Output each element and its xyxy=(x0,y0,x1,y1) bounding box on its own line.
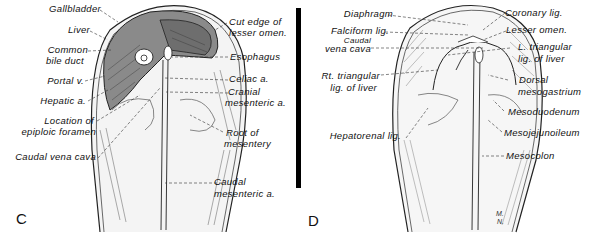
label-coronary-lig: Coronary lig. xyxy=(505,8,563,18)
label-falciform-lig: Falciform lig. xyxy=(331,26,389,36)
label-hepatorenal-lig: Hepatorenal lig. xyxy=(330,131,401,141)
label-mesogastrium: mesogastrium xyxy=(518,87,581,97)
label-mesoduodenum: Mesoduodenum xyxy=(508,107,580,117)
label-mesocolon: Mesocolon xyxy=(506,151,555,161)
label-caudal-mesenteric-a: mesenteric a. xyxy=(214,189,275,199)
panel-letter-c: C xyxy=(16,210,27,227)
label-portal-v: Portal v. xyxy=(47,76,84,86)
label-cranial: Cranial xyxy=(228,87,260,97)
label-mesenteric-a: mesenteric a. xyxy=(225,98,286,108)
artist-signature-m: M. xyxy=(496,210,504,218)
panel-letter-d: D xyxy=(308,212,319,229)
label-l-triangular: L. triangular xyxy=(518,42,572,52)
label-vena-cava-d: vena cava xyxy=(325,44,371,54)
label-mesentery: mesentery xyxy=(224,139,271,149)
label-lig-of-liver-rt: lig. of liver xyxy=(330,83,377,93)
label-cut-edge-of: Cut edge of xyxy=(229,17,281,27)
label-liver: Liver xyxy=(68,25,90,35)
label-common: Common xyxy=(48,45,88,55)
label-bile-duct: bile duct xyxy=(46,56,84,66)
label-gallbladder: Gallbladder xyxy=(49,4,101,14)
label-lig-of-liver-l: lig. of liver xyxy=(518,54,565,64)
label-dorsal: Dorsal xyxy=(519,75,548,85)
label-epiploic-foramen: epiploic foramen xyxy=(21,127,96,137)
label-lesser-omen-d: Lesser omen. xyxy=(506,25,567,35)
label-root-of: Root of xyxy=(226,128,259,138)
label-rt-triangular: Rt. triangular xyxy=(321,71,380,81)
label-lesser-omen: lesser omen. xyxy=(229,28,287,38)
label-location-of: Location of xyxy=(44,116,94,126)
label-hepatic-a: Hepatic a. xyxy=(40,96,86,106)
label-celiac-a: Celiac a. xyxy=(229,74,269,84)
label-esophagus: Esophagus xyxy=(230,52,280,62)
label-diaphragm: Diaphragm xyxy=(344,9,393,19)
label-caudal-vena-cava: Caudal vena cava xyxy=(15,152,96,162)
label-mesojejunoileum: Mesojejunoileum xyxy=(504,128,580,138)
label-caudal: Caudal xyxy=(214,177,246,187)
artist-signature-n: N. xyxy=(497,218,504,226)
panel-d: Diaphragm Falciform lig. Caudal vena cav… xyxy=(298,0,589,233)
panel-c: Gallbladder Liver Common bile duct Porta… xyxy=(0,0,296,233)
